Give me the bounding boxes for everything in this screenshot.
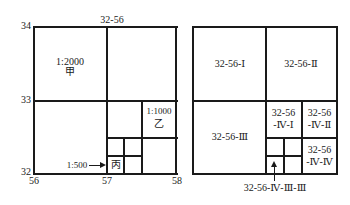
callout-arrow-head: [271, 161, 277, 167]
sheet-q1-label: 32-56-Ⅰ: [200, 58, 260, 69]
sheet-yi-label: 乙: [143, 118, 175, 129]
sheet-q4-2-line2: -Ⅳ-Ⅱ: [302, 119, 337, 130]
x-label-58: 58: [170, 175, 184, 186]
y-label-34: 34: [19, 20, 33, 31]
y-label-33: 33: [19, 94, 33, 105]
right-mid-horizontal: [192, 100, 338, 102]
callout-arrow-shaft: [274, 166, 275, 181]
callout-label: 32-56-Ⅳ-Ⅲ-Ⅲ: [235, 182, 315, 193]
sheet-q4-1-line1: 32-56: [266, 107, 301, 118]
sheet-q4-4-line1: 32-56: [302, 144, 337, 155]
right-eighth-horizontal: [265, 155, 303, 157]
scale-1000-label: 1:1000: [143, 106, 175, 117]
left-eighth-horizontal: [106, 155, 143, 157]
sheet-jia-label: 甲: [50, 66, 90, 77]
sheet-number-label: 32-56: [92, 14, 132, 25]
sheet-q3-label: 32-56-Ⅲ: [200, 131, 260, 142]
sheet-q4-1-line2: -Ⅳ-Ⅰ: [266, 119, 301, 130]
x-label-56: 56: [27, 175, 41, 186]
left-mid-horizontal: [33, 100, 178, 102]
sheet-bing-label: 丙: [108, 159, 123, 170]
sheet-q4-4-line2: -Ⅳ-Ⅳ: [302, 156, 337, 167]
right-quarter-horizontal: [265, 137, 338, 139]
left-quarter-horizontal: [106, 137, 178, 139]
scale-500-arrow-head: [100, 162, 106, 168]
scale-500-label: 1:500: [64, 160, 90, 171]
sheet-q4-2-line1: 32-56: [302, 107, 337, 118]
x-label-57: 57: [100, 175, 114, 186]
sheet-q2-label: 32-56-Ⅱ: [271, 58, 331, 69]
